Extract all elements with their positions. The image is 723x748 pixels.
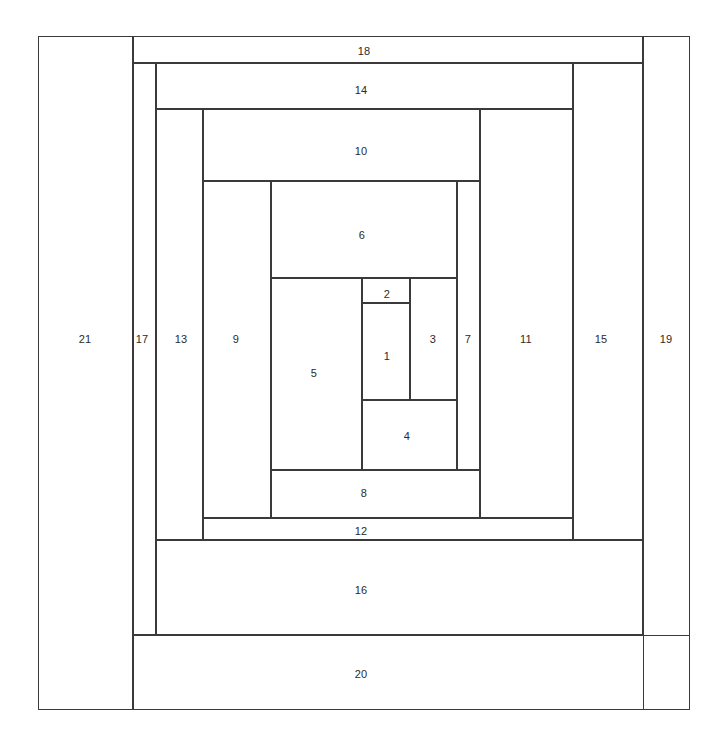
region-20: 20 bbox=[133, 635, 690, 710]
region-14: 14 bbox=[156, 63, 573, 109]
region-1: 1 bbox=[362, 303, 410, 400]
region-6: 6 bbox=[271, 181, 457, 278]
region-label-8: 8 bbox=[361, 488, 367, 499]
region-7: 7 bbox=[457, 181, 480, 470]
region-label-3: 3 bbox=[430, 334, 436, 345]
region-label-16: 16 bbox=[355, 585, 368, 596]
region-9: 9 bbox=[203, 181, 271, 518]
region-19: 19 bbox=[643, 36, 690, 710]
region-16: 16 bbox=[156, 540, 643, 635]
region-label-5: 5 bbox=[311, 368, 317, 379]
region-13: 13 bbox=[156, 109, 203, 540]
region-12: 12 bbox=[203, 518, 573, 540]
region-label-11: 11 bbox=[520, 334, 532, 345]
region-label-21: 21 bbox=[79, 334, 92, 345]
spiral-subdivision-diagram: 123456789101112131415161718192021 bbox=[0, 0, 723, 748]
region-2: 2 bbox=[362, 278, 410, 303]
region-label-6: 6 bbox=[359, 230, 365, 241]
region-label-7: 7 bbox=[465, 334, 471, 345]
region-4: 4 bbox=[362, 400, 457, 470]
region-label-1: 1 bbox=[384, 351, 390, 362]
region-21: 21 bbox=[38, 36, 133, 710]
region-label-4: 4 bbox=[404, 431, 410, 442]
region-5: 5 bbox=[271, 278, 362, 470]
region-label-2: 2 bbox=[384, 289, 390, 300]
region-10: 10 bbox=[203, 109, 480, 181]
region-label-14: 14 bbox=[355, 85, 368, 96]
region-17: 17 bbox=[133, 63, 156, 635]
region-15: 15 bbox=[573, 63, 643, 540]
region-18: 18 bbox=[133, 36, 643, 63]
region-label-10: 10 bbox=[355, 146, 368, 157]
region-label-17: 17 bbox=[136, 334, 149, 345]
region-3: 3 bbox=[410, 278, 457, 400]
region-8: 8 bbox=[271, 470, 480, 518]
region-label-12: 12 bbox=[355, 526, 368, 537]
region-label-9: 9 bbox=[233, 334, 239, 345]
region-label-15: 15 bbox=[595, 334, 608, 345]
region-label-18: 18 bbox=[358, 46, 371, 57]
region-label-13: 13 bbox=[175, 334, 188, 345]
region-11: 11 bbox=[480, 109, 573, 518]
region-label-19: 19 bbox=[660, 334, 673, 345]
region-label-20: 20 bbox=[355, 669, 368, 680]
